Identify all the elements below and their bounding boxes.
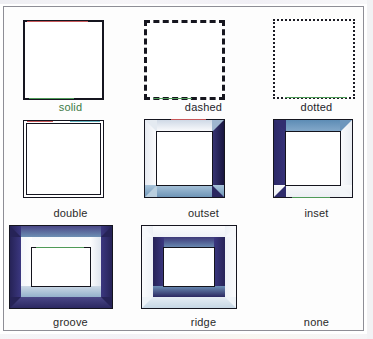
sample-cell-double: double: [4, 115, 137, 221]
border-box-dashed: [144, 20, 225, 100]
border-box-double: [23, 120, 104, 198]
sample-cell-none: none: [270, 221, 363, 330]
border-box-none: [273, 232, 355, 308]
border-box-outset: [144, 119, 225, 198]
sample-label-double: double: [4, 207, 137, 219]
sample-label-dashed: dashed: [137, 101, 270, 113]
border-box-dotted: [273, 19, 355, 99]
border-style-sample-page: solid dashed dotted double: [0, 0, 373, 339]
sample-cell-inset: inset: [270, 115, 363, 221]
sample-cell-solid: solid: [4, 8, 137, 115]
sample-cell-outset: outset: [137, 115, 270, 221]
scan-artifact-bottom: [0, 334, 373, 339]
sample-label-ridge: ridge: [137, 316, 270, 328]
sample-cell-ridge: ridge: [137, 221, 270, 330]
sample-label-outset: outset: [137, 207, 270, 219]
sample-label-inset: inset: [270, 207, 363, 219]
sample-cell-dotted: dotted: [270, 8, 363, 115]
sample-label-groove: groove: [4, 316, 137, 328]
border-box-inset: [273, 119, 353, 198]
sample-cell-groove: groove: [4, 221, 137, 330]
sample-cell-dashed: dashed: [137, 8, 270, 115]
sample-label-solid: solid: [4, 101, 137, 113]
sample-label-none: none: [270, 316, 363, 328]
border-box-solid: [23, 20, 104, 100]
scan-artifact-right: [367, 0, 373, 339]
border-box-ridge: [141, 225, 237, 309]
scan-artifact-top: [0, 0, 373, 4]
sample-grid: solid dashed dotted double: [4, 8, 363, 330]
sample-label-dotted: dotted: [270, 101, 363, 113]
border-box-groove: [9, 225, 113, 309]
